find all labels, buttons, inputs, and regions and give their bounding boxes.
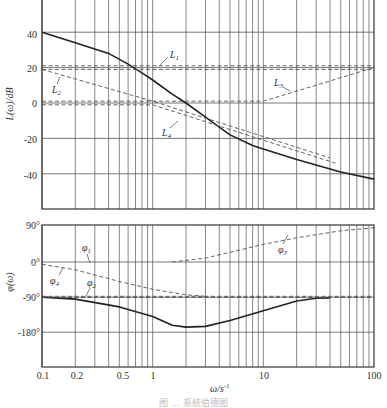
svg-text:φ3: φ3 [278, 244, 288, 257]
curve-L [42, 32, 374, 179]
label-L4: L4 [161, 121, 178, 140]
curve-L4 [42, 105, 336, 163]
mag-ytick: 20 [27, 63, 37, 74]
label-L1: L1 [159, 49, 179, 66]
magnitude-axis-label: L(ω)/dB [4, 87, 16, 121]
x-axis-label: ω/s-1 [210, 382, 230, 394]
xtick: 0.1 [37, 370, 50, 381]
phase-ytick: 0° [31, 257, 40, 268]
xtick: 10 [259, 370, 269, 381]
label-phi4: φ4 [50, 268, 63, 288]
xtick: 0.2 [71, 370, 84, 381]
label-phi3: φ3 [278, 235, 288, 257]
label-L2: L2 [51, 77, 62, 97]
phase-ytick: 90° [26, 220, 40, 231]
curve-L3 [42, 68, 374, 102]
label-L3: L3 [273, 77, 290, 91]
mag-ytick: -40 [24, 170, 37, 181]
phase-ytick: -180° [18, 327, 40, 338]
mag-ytick: -20 [24, 134, 37, 145]
svg-text:φ4: φ4 [50, 275, 60, 288]
mag-ytick: 40 [27, 29, 37, 40]
xtick: 0.5 [117, 370, 130, 381]
bode-plot: 40 20 0 -20 -40 90° 0° -90° -180° 0.1 0.… [0, 0, 387, 396]
magnitude-grid [42, 0, 374, 209]
figure-caption: 图 … 系统伯德图 [0, 396, 387, 408]
svg-text:L3: L3 [273, 77, 284, 90]
svg-text:L1: L1 [169, 49, 179, 62]
phase-ytick: -90° [23, 292, 40, 303]
xtick: 100 [367, 370, 382, 381]
curve-φ1 [42, 264, 206, 296]
magnitude-frame [42, 0, 374, 209]
svg-text:φ1: φ1 [82, 242, 91, 255]
label-phi1: φ1 [82, 242, 91, 263]
xtick: 1 [151, 370, 156, 381]
curve-φ3 [172, 228, 374, 262]
mag-ytick: 0 [32, 98, 37, 109]
svg-text:L2: L2 [51, 84, 62, 97]
phase-axis-label: φ(ω) [4, 272, 16, 292]
